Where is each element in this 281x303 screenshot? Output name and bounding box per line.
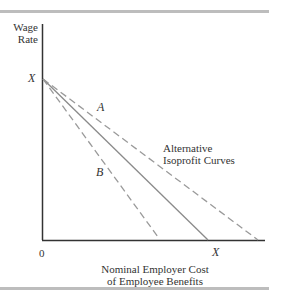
- origin-label: 0: [39, 247, 45, 259]
- bottom-rule: [0, 287, 269, 290]
- x-axis-label: Nominal Employer Cost of Employee Benefi…: [80, 263, 230, 287]
- annotation-line2: Isoprofit Curves: [163, 154, 235, 166]
- curve-a-label: A: [97, 101, 104, 113]
- x-intercept-label: X: [212, 246, 219, 258]
- x-axis-label-line2: of Employee Benefits: [80, 275, 230, 287]
- curve-b-label: B: [96, 166, 103, 178]
- x-axis-label-line1: Nominal Employer Cost: [80, 263, 230, 275]
- annotation-line1: Alternative: [163, 142, 235, 154]
- annotation-alternative-isoprofit-curves: Alternative Isoprofit Curves: [163, 142, 235, 166]
- y-intercept-label: X: [28, 72, 35, 84]
